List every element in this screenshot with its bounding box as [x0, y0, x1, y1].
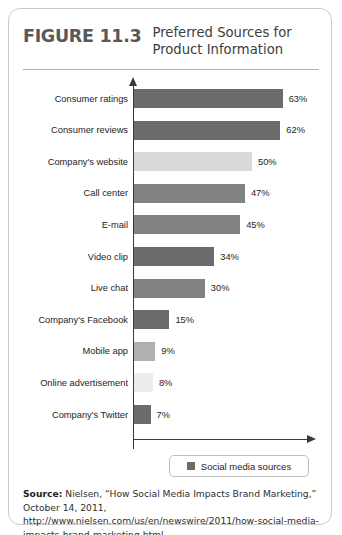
- bar-row: Company's Facebook15%: [9, 310, 333, 329]
- bar-value-label: 63%: [289, 94, 308, 104]
- bar-row: Consumer reviews62%: [9, 121, 333, 140]
- chart-legend: Social media sources: [169, 455, 309, 477]
- bar-value-label: 62%: [286, 125, 305, 135]
- bar-value-label: 30%: [211, 283, 230, 293]
- bar-value-label: 45%: [246, 220, 265, 230]
- bar-chart-plot: Consumer ratings63%Consumer reviews62%Co…: [9, 77, 333, 449]
- bar-rect: [134, 89, 283, 108]
- legend-swatch-icon: [187, 462, 195, 470]
- bar-value-label: 47%: [251, 188, 270, 198]
- figure-header: FIGURE 11.3 Preferred Sources for Produc…: [23, 25, 317, 58]
- bar-category-label: Company's website: [16, 157, 128, 167]
- figure-card: FIGURE 11.3 Preferred Sources for Produc…: [8, 8, 332, 525]
- figure-title: Preferred Sources for Product Informatio…: [152, 25, 291, 58]
- bar-row: Video clip34%: [9, 247, 333, 266]
- bar-category-label: Company's Facebook: [16, 315, 128, 325]
- bar-rect: [134, 310, 169, 329]
- bar-category-label: Consumer reviews: [16, 125, 128, 135]
- bar-rect: [134, 373, 153, 392]
- figure-title-line-1: Preferred Sources for: [152, 25, 291, 42]
- bar-value-label: 50%: [258, 157, 277, 167]
- bar-category-label: Call center: [16, 188, 128, 198]
- bar-value-label: 34%: [220, 252, 239, 262]
- bar-category-label: E-mail: [16, 220, 128, 230]
- bar-rect: [134, 215, 240, 234]
- y-axis-arrow-icon: [129, 77, 137, 86]
- bar-rect: [134, 247, 214, 266]
- bar-category-label: Consumer ratings: [16, 94, 128, 104]
- bar-value-label: 15%: [175, 315, 194, 325]
- bar-row: Call center47%: [9, 184, 333, 203]
- bar-rect: [134, 152, 252, 171]
- x-axis-line: [133, 439, 308, 440]
- bar-category-label: Video clip: [16, 252, 128, 262]
- bar-category-label: Company's Twitter: [16, 410, 128, 420]
- figure-number: FIGURE 11.3: [23, 25, 141, 46]
- bar-value-label: 8%: [159, 378, 172, 388]
- bar-rect: [134, 405, 151, 424]
- bar-row: Mobile app9%: [9, 342, 333, 361]
- bar-row: Online advertisement8%: [9, 373, 333, 392]
- source-text: Nielsen, “How Social Media Impacts Brand…: [23, 488, 319, 535]
- source-label: Source:: [23, 488, 62, 499]
- bar-category-label: Online advertisement: [16, 378, 128, 388]
- x-axis-arrow-icon: [307, 435, 316, 443]
- bar-rect: [134, 121, 280, 140]
- header-divider: [23, 69, 319, 70]
- bar-category-label: Mobile app: [16, 346, 128, 356]
- bar-value-label: 7%: [157, 410, 170, 420]
- bar-row: Consumer ratings63%: [9, 89, 333, 108]
- bar-value-label: 9%: [161, 346, 174, 356]
- bar-row: Company's Twitter7%: [9, 405, 333, 424]
- legend-label: Social media sources: [201, 461, 291, 472]
- bar-row: Live chat30%: [9, 279, 333, 298]
- bar-category-label: Live chat: [16, 283, 128, 293]
- source-note: Source: Nielsen, “How Social Media Impac…: [23, 487, 319, 535]
- y-axis-line: [133, 85, 134, 449]
- bar-row: E-mail45%: [9, 215, 333, 234]
- bar-rect: [134, 279, 205, 298]
- bar-rect: [134, 184, 245, 203]
- bar-rect: [134, 342, 155, 361]
- bar-row: Company's website50%: [9, 152, 333, 171]
- figure-title-line-2: Product Information: [152, 42, 291, 59]
